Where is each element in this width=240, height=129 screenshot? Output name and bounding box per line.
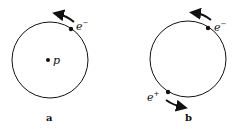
electron-dot-a — [69, 27, 73, 31]
panel-caption-a: a — [46, 112, 53, 123]
panel-a: p e− a — [12, 14, 89, 123]
panel-b: e− e+ b — [147, 13, 227, 123]
proton-dot — [46, 58, 50, 62]
panel-caption-b: b — [185, 112, 192, 123]
electron-dot-b — [206, 26, 210, 30]
motion-arrow-electron-a — [58, 14, 74, 22]
motion-arrow-electron-b — [195, 13, 211, 20]
proton-label: p — [53, 54, 60, 67]
positron-label: e+ — [147, 90, 160, 104]
motion-arrow-positron — [166, 100, 182, 107]
electron-label-a: e− — [76, 19, 89, 33]
diagram-canvas: p e− a e− e+ b — [0, 0, 240, 129]
electron-label-b: e− — [214, 20, 227, 34]
positron-dot — [166, 90, 170, 94]
